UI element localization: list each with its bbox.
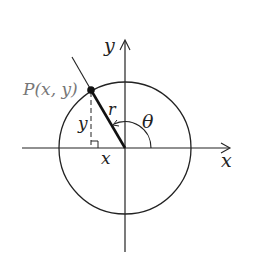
angle-theta-label: θ <box>142 110 154 132</box>
point-p-label: P(x, y) <box>22 79 78 99</box>
y-axis-label: y <box>103 34 115 56</box>
diagram-canvas: y x P(x, y) r θ y x <box>0 0 255 273</box>
point-p <box>87 86 95 94</box>
x-axis-label: x <box>221 149 232 171</box>
radius-label: r <box>108 100 117 119</box>
polar-coordinate-diagram: y x P(x, y) r θ y x <box>0 0 255 273</box>
radius-segment <box>91 90 125 148</box>
leg-x-label: x <box>101 148 111 168</box>
right-angle-marker-icon <box>91 141 98 148</box>
leg-y-label: y <box>77 113 88 133</box>
